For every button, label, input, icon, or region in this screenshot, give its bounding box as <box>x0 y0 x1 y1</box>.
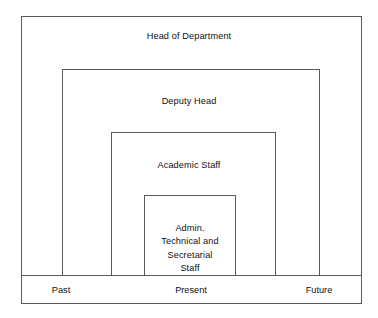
band-label-admin-line-2: Technical and <box>144 235 236 248</box>
band-label-admin-line-4: Staff <box>144 262 236 275</box>
axis-label-present: Present <box>161 285 221 296</box>
band-label-admin-line-3: Secretarial <box>144 249 236 262</box>
axis-label-future: Future <box>289 285 349 296</box>
band-label-deputy-head: Deputy Head <box>0 96 378 107</box>
band-label-academic-staff: Academic Staff <box>0 160 378 171</box>
diagram-canvas: Head of Department Deputy Head Academic … <box>0 0 378 318</box>
band-label-admin-line-1: Admin. <box>144 222 236 235</box>
axis-label-past: Past <box>31 285 91 296</box>
band-label-head-of-department: Head of Department <box>0 31 378 42</box>
band-label-admin-technical-secretarial-staff: Admin. Technical and Secretarial Staff <box>144 222 236 276</box>
